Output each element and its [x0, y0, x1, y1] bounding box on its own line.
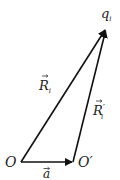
vector-diagram: qi Ri R′i O O′ a	[0, 0, 120, 180]
label-O: O	[5, 154, 17, 170]
vector-R-i-prime	[73, 31, 106, 162]
svg-text:R′i: R′i	[92, 102, 106, 121]
label-O-prime: O′	[78, 154, 93, 170]
label-R-i-prime: R′i	[92, 100, 106, 122]
label-q: qi	[101, 6, 112, 23]
label-a: a	[43, 167, 50, 180]
label-R-i: Ri	[38, 75, 51, 96]
diagram-svg: qi Ri R′i O O′ a	[0, 0, 120, 180]
svg-text:Ri: Ri	[38, 78, 51, 95]
vector-R-i	[21, 30, 105, 162]
